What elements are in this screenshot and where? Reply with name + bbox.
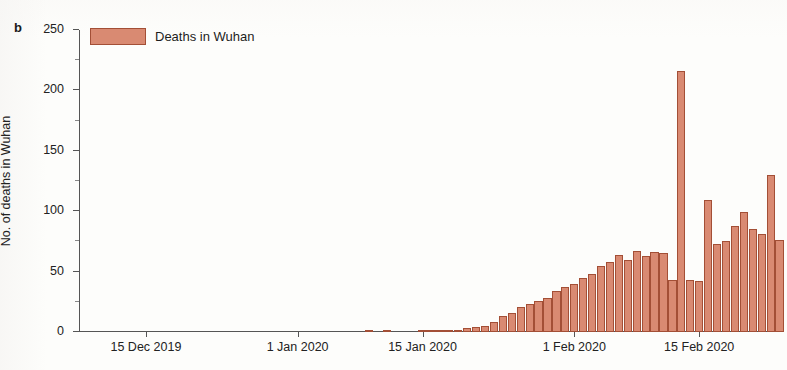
- x-tick-label-2019-12-15: 15 Dec 2019: [110, 340, 181, 354]
- bar: [677, 71, 685, 332]
- bar: [526, 304, 534, 332]
- panel-label: b: [14, 20, 22, 35]
- bar: [624, 260, 632, 332]
- y-axis-title: No. of deaths in Wuhan: [0, 116, 13, 246]
- figure-panel: b No. of deaths in Wuhan 050100150200250…: [0, 0, 787, 370]
- bar: [570, 284, 578, 332]
- bar: [490, 322, 498, 332]
- bar: [472, 327, 480, 332]
- bar: [633, 251, 641, 332]
- bar: [436, 330, 444, 332]
- y-tick-label-200: 200: [43, 82, 64, 96]
- bar: [686, 280, 694, 332]
- bar: [517, 307, 525, 332]
- x-tick-2020-01-01: [298, 332, 299, 337]
- bar: [454, 330, 462, 332]
- bar: [463, 328, 471, 332]
- y-tick-label-100: 100: [43, 203, 64, 217]
- x-tick-2020-02-15: [699, 332, 700, 337]
- bar: [534, 301, 542, 332]
- bar: [713, 244, 721, 332]
- bar: [383, 330, 391, 332]
- bar: [508, 313, 516, 332]
- bar: [543, 298, 551, 332]
- bar: [615, 255, 623, 332]
- bar: [650, 252, 658, 332]
- bar: [659, 253, 667, 332]
- bar: [552, 291, 560, 332]
- y-tick-label-50: 50: [50, 264, 64, 278]
- bar: [418, 330, 426, 332]
- x-tick-2020-02-01: [574, 332, 575, 337]
- bar: [749, 229, 757, 332]
- x-tick-2020-01-15: [423, 332, 424, 337]
- bar: [775, 240, 783, 332]
- x-tick-label-2020-02-15: 15 Feb 2020: [664, 340, 734, 354]
- bar: [695, 281, 703, 332]
- x-tick-label-2020-02-01: 1 Feb 2020: [543, 340, 606, 354]
- legend-swatch-deaths-in-wuhan: [90, 28, 146, 45]
- bar: [427, 330, 435, 332]
- bar: [704, 200, 712, 332]
- bar: [767, 175, 775, 332]
- x-tick-label-2020-01-15: 15 Jan 2020: [388, 340, 457, 354]
- legend: Deaths in Wuhan: [90, 28, 255, 45]
- bar: [606, 262, 614, 332]
- x-tick-2019-12-15: [146, 332, 147, 337]
- bar: [642, 256, 650, 332]
- bar: [668, 280, 676, 332]
- bar: [597, 266, 605, 332]
- bar-series-deaths-in-wuhan: [79, 30, 784, 332]
- bar: [481, 326, 489, 332]
- bar: [445, 330, 453, 332]
- bar: [561, 287, 569, 332]
- y-tick-label-150: 150: [43, 143, 64, 157]
- legend-label-deaths-in-wuhan: Deaths in Wuhan: [155, 29, 255, 44]
- plot-area: 050100150200250: [79, 30, 784, 332]
- x-tick-label-2020-01-01: 1 Jan 2020: [267, 340, 329, 354]
- y-tick-label-250: 250: [43, 22, 64, 36]
- bar: [499, 316, 507, 332]
- bar: [722, 241, 730, 332]
- bar: [758, 234, 766, 332]
- bar: [588, 274, 596, 332]
- bar: [731, 226, 739, 332]
- y-tick-label-0: 0: [57, 324, 64, 338]
- bar: [579, 278, 587, 332]
- bar: [365, 330, 373, 332]
- bar: [740, 212, 748, 332]
